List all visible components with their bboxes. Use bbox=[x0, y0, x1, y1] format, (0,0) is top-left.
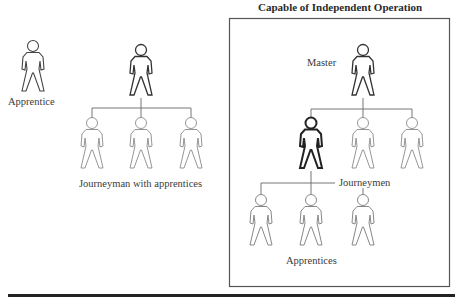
master-figure bbox=[352, 45, 374, 96]
master-group bbox=[250, 45, 423, 246]
apprentice-figures bbox=[81, 118, 202, 169]
journeyman-group-label: Journeyman with apprentices bbox=[79, 178, 202, 189]
bottom-rule bbox=[8, 294, 455, 297]
journeyman-figure bbox=[130, 45, 152, 96]
apprentice-figure bbox=[22, 41, 44, 92]
apprentice-figures bbox=[250, 195, 374, 246]
journeymen-label: Journeymen bbox=[339, 177, 390, 188]
apprentice-label: Apprentice bbox=[8, 96, 55, 107]
journeyman-group bbox=[81, 45, 202, 169]
apprenticeship-diagram bbox=[0, 0, 461, 304]
journeymen-figures bbox=[352, 118, 423, 169]
box-title: Capable of Independent Operation bbox=[258, 1, 422, 13]
connector-lines bbox=[92, 98, 191, 118]
master-label: Master bbox=[307, 57, 336, 68]
lead-journeyman-figure bbox=[300, 118, 322, 169]
apprentices-label: Apprentices bbox=[286, 255, 337, 266]
